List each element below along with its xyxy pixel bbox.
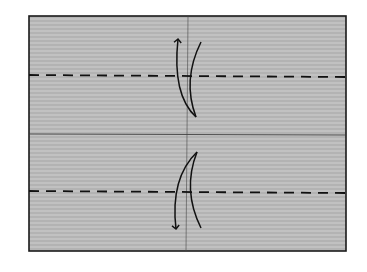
origami-diagram (0, 0, 367, 272)
